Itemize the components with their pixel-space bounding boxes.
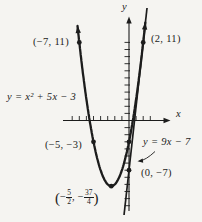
x-axis-label: x — [176, 108, 181, 120]
vertex-close-paren: ) — [94, 190, 99, 206]
point-label-0-neg7: (0, −7) — [141, 167, 172, 179]
point-label-2-11: (2, 11) — [151, 33, 181, 45]
vertex-frac2-numerator: 37 — [84, 189, 94, 197]
vertex-frac2-denominator: 4 — [84, 197, 94, 206]
graph-figure: y x (−7, 11) (2, 11) y = x² + 5x − 3 (−5… — [0, 0, 202, 222]
vertex-fraction-2: 374 — [84, 189, 94, 206]
point-label-neg7-11: (−7, 11) — [33, 36, 69, 48]
point-label-neg5-neg3: (−5, −3) — [45, 139, 82, 151]
y-axis-label: y — [122, 1, 127, 13]
parabola-equation-label: y = x² + 5x − 3 — [7, 91, 76, 103]
vertex-label: (−52, −374) — [55, 189, 99, 207]
line-equation-label: y = 9x − 7 — [143, 136, 191, 148]
